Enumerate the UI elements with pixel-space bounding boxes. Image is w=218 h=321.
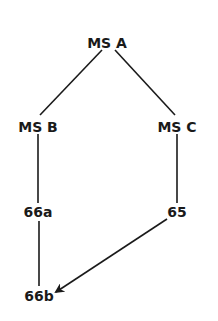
edge-a-to-b <box>40 50 102 115</box>
node-66a: 66a <box>24 205 53 219</box>
node-ms-c: MS C <box>157 120 196 134</box>
edge-65-to-66b-arrow <box>56 219 167 292</box>
node-ms-a: MS A <box>87 36 127 50</box>
edge-a-to-c <box>115 50 175 115</box>
node-ms-b: MS B <box>18 120 58 134</box>
node-66b: 66b <box>24 289 54 303</box>
node-65: 65 <box>167 205 186 219</box>
